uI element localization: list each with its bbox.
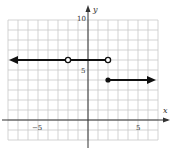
- left-arrow-icon: [9, 56, 18, 64]
- right-arrow-icon: [147, 76, 156, 84]
- open-point-neg2-6: [65, 57, 70, 62]
- x-axis-label: x: [163, 106, 168, 115]
- open-point-2-6: [105, 57, 110, 62]
- closed-point-2-4: [105, 77, 110, 82]
- y-tick-label-5: 5: [81, 67, 85, 75]
- x-axis-arrow-icon: [163, 118, 170, 123]
- y-axis-arrow-icon: [86, 5, 91, 12]
- x-tick-label-neg5: −5: [32, 124, 42, 132]
- axes: [2, 5, 170, 148]
- x-tick-label-5: 5: [136, 124, 140, 132]
- chart-canvas: x y −5 5 10 5: [0, 0, 173, 151]
- y-tick-label-10: 10: [77, 15, 86, 23]
- y-axis-label: y: [92, 5, 98, 14]
